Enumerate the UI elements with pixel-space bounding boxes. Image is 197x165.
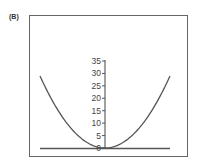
- y-axis-ticks: 05101520253035: [92, 56, 105, 153]
- y-tick-label: 35: [92, 56, 102, 66]
- y-tick-label: 20: [92, 93, 102, 103]
- y-tick-label: 30: [92, 68, 102, 78]
- y-tick-label: 5: [96, 131, 101, 141]
- parabola-chart: 05101520253035: [0, 0, 197, 165]
- y-tick-label: 15: [92, 106, 102, 116]
- y-tick-label: 25: [92, 81, 102, 91]
- y-tick-label: 10: [92, 118, 102, 128]
